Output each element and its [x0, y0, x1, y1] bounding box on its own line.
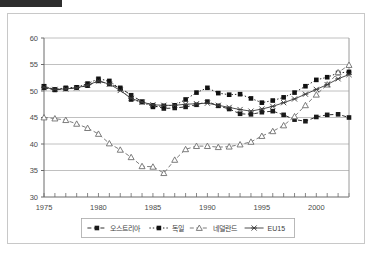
data-point	[270, 98, 275, 103]
y-tick-label: 60	[30, 34, 38, 43]
data-point	[194, 90, 199, 95]
x-tick-label: 2000	[308, 203, 325, 212]
y-tick-label: 45	[30, 113, 38, 122]
series-line	[44, 72, 349, 107]
data-point	[303, 119, 308, 124]
data-point	[157, 226, 162, 231]
data-point	[281, 95, 286, 100]
x-tick-label: 1975	[36, 203, 53, 212]
data-point	[238, 111, 243, 116]
legend-label: EU15	[268, 225, 286, 232]
y-tick-label: 50	[30, 87, 38, 96]
data-point	[227, 92, 232, 97]
data-point	[335, 76, 341, 81]
data-point	[128, 154, 134, 159]
data-point	[292, 96, 298, 101]
data-point	[260, 100, 265, 105]
y-tick-label: 35	[30, 166, 38, 175]
data-point	[347, 115, 352, 120]
data-point	[314, 115, 319, 120]
data-point	[325, 75, 330, 80]
x-tick-label: 1985	[145, 203, 162, 212]
legend-label: 오스트리아	[110, 224, 141, 233]
data-point	[74, 121, 80, 126]
legend-label: 네덜란드	[213, 224, 238, 233]
data-point	[303, 84, 308, 89]
series-2	[41, 62, 352, 176]
data-point	[292, 90, 297, 95]
data-point	[281, 113, 286, 118]
data-point	[281, 100, 287, 105]
data-point	[95, 226, 100, 231]
data-series-group	[41, 62, 352, 176]
data-point	[183, 97, 188, 102]
data-point	[314, 78, 319, 83]
data-point	[270, 128, 276, 133]
x-tick-label: 1995	[254, 203, 271, 212]
line-chart: 30354045505560 197519801985199019952000 …	[0, 0, 376, 256]
x-axis-minor-ticks	[44, 193, 349, 197]
data-point	[248, 139, 254, 144]
y-tick-label: 30	[30, 193, 38, 202]
data-point	[172, 157, 178, 162]
data-point	[325, 113, 330, 118]
data-point	[249, 96, 254, 101]
data-point	[205, 86, 210, 91]
data-point	[303, 92, 309, 97]
data-point	[270, 104, 276, 109]
x-axis-tick-labels: 197519801985199019952000	[36, 203, 325, 212]
data-point	[95, 131, 101, 136]
x-tick-label: 1990	[199, 203, 216, 212]
data-point	[237, 107, 243, 112]
y-axis-tick-labels: 30354045505560	[30, 34, 38, 202]
data-point	[238, 92, 243, 97]
legend-label: 독일	[172, 224, 184, 233]
y-tick-label: 40	[30, 140, 38, 149]
chart-svg: 30354045505560 197519801985199019952000 …	[0, 0, 376, 256]
y-tick-label: 55	[30, 60, 38, 69]
data-point	[336, 112, 341, 117]
data-point	[85, 125, 91, 130]
data-point	[259, 133, 265, 138]
x-tick-label: 1980	[90, 203, 107, 212]
chart-legend: 오스트리아독일네덜란드EU15	[81, 219, 294, 238]
data-point	[302, 102, 308, 107]
data-point	[270, 109, 275, 114]
data-point	[216, 91, 221, 96]
data-point	[117, 147, 123, 152]
